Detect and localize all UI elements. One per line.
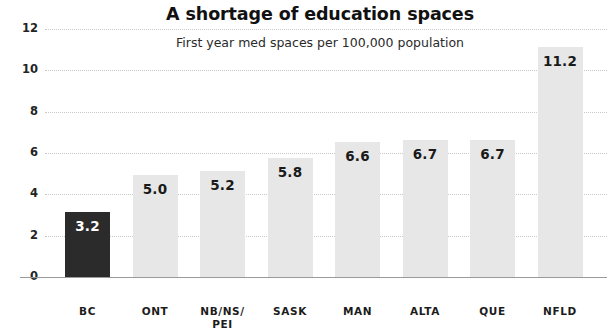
y-axis-tick-label: 6 — [0, 145, 38, 159]
bar-value-label: 3.2 — [65, 218, 110, 234]
bar-group[interactable]: 3.2BC — [65, 21, 110, 278]
bar-group[interactable]: 11.2NFLD — [538, 21, 583, 278]
plot-area: 024681012 3.2BC5.0ONT5.2NB/NS/PEI5.8SASK… — [45, 20, 607, 278]
y-axis-tick-label: 12 — [0, 21, 38, 35]
bar-group[interactable]: 5.0ONT — [133, 21, 178, 278]
x-axis-category-label-line: ONT — [142, 305, 169, 317]
x-axis-category-label: ONT — [133, 305, 178, 318]
y-axis-tick-label: 8 — [0, 104, 38, 118]
bar-group[interactable]: 5.2NB/NS/PEI — [200, 21, 245, 278]
bar-group[interactable]: 6.7QUE — [470, 21, 515, 278]
gridline — [45, 29, 607, 30]
x-axis-category-label-line: BC — [79, 305, 96, 317]
y-axis-tick-label: 10 — [0, 62, 38, 76]
x-axis-category-label: NFLD — [538, 305, 583, 318]
gridline — [45, 70, 607, 71]
x-axis-category-label: SASK — [268, 305, 313, 318]
y-axis-tick-label: 4 — [0, 186, 38, 200]
gridline — [45, 112, 607, 113]
gridline — [45, 153, 607, 154]
bar-value-label: 6.6 — [335, 148, 380, 164]
x-axis-category-label: ALTA — [403, 305, 448, 318]
x-axis-category-label: MAN — [335, 305, 380, 318]
y-axis-tick-label: 2 — [0, 228, 38, 242]
bar-value-label: 6.7 — [403, 146, 448, 162]
bar-group[interactable]: 6.6MAN — [335, 21, 380, 278]
bar-value-label: 5.0 — [133, 181, 178, 197]
gridline — [45, 236, 607, 237]
x-axis-category-label-line: SASK — [273, 305, 307, 317]
x-axis-line — [20, 277, 607, 278]
x-axis-category-label-line: ALTA — [410, 305, 440, 317]
bar-value-label: 6.7 — [470, 146, 515, 162]
gridline — [45, 194, 607, 195]
x-axis-category-label-line: MAN — [343, 305, 372, 317]
x-axis-category-label: BC — [65, 305, 110, 318]
x-axis-category-label: QUE — [470, 305, 515, 318]
bar-value-label: 5.2 — [200, 177, 245, 193]
bar-group[interactable]: 6.7ALTA — [403, 21, 448, 278]
bar-value-label: 5.8 — [268, 164, 313, 180]
x-axis-category-label-line: PEI — [200, 318, 245, 331]
bar-value-label: 11.2 — [538, 53, 583, 69]
x-axis-category-label: NB/NS/PEI — [200, 305, 245, 331]
y-axis-tick-label: 0 — [0, 269, 38, 283]
x-axis-category-label-line: NB/NS/ — [200, 305, 244, 317]
x-axis-category-label-line: NFLD — [543, 305, 577, 317]
bar[interactable] — [538, 47, 583, 278]
bar-group[interactable]: 5.8SASK — [268, 21, 313, 278]
x-axis-category-label-line: QUE — [479, 305, 505, 317]
